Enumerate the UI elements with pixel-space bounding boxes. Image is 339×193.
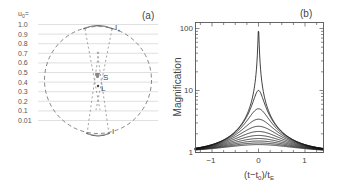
- u0-row-label: 1.0: [18, 21, 28, 28]
- figure: (a) u0= 1.00.90.80.70.60.50.40.30.20.10.…: [0, 0, 339, 193]
- source-label: S: [103, 73, 108, 82]
- image-minus-label: I: [112, 127, 114, 136]
- u0-row-label: 0.3: [18, 88, 28, 95]
- ytick-10: 10: [184, 86, 193, 95]
- panel-a: (a) u0= 1.00.90.80.70.60.50.40.30.20.10.…: [18, 10, 158, 136]
- u0-guide-lines: [38, 25, 158, 121]
- lens-label: L: [101, 84, 106, 93]
- u0-row-labels: 1.00.90.80.70.60.50.40.30.20.10.01: [18, 21, 32, 124]
- magnification-curve: [195, 31, 324, 148]
- panel-b-label: (b): [300, 8, 312, 19]
- u0-header: u0=: [18, 10, 29, 19]
- u0-row-label: 0.4: [18, 79, 28, 86]
- xtick-1: 1: [302, 156, 307, 165]
- source-star-icon: [95, 73, 100, 78]
- xtick-neg1: −1: [206, 156, 216, 165]
- lens-point-icon: [97, 85, 99, 87]
- u0-row-label: 0.1: [18, 107, 28, 114]
- u0-row-label: 0.01: [18, 117, 32, 124]
- x-axis-label: (t−t0)/tE: [244, 169, 274, 181]
- magnification-curves: [195, 31, 324, 150]
- u0-row-label: 0.7: [18, 50, 28, 57]
- ytick-100: 100: [180, 24, 194, 33]
- u0-row-label: 0.2: [18, 98, 28, 105]
- u0-row-label: 0.6: [18, 59, 28, 66]
- u0-row-label: 0.9: [18, 31, 28, 38]
- panel-b: (b) 1 10 100 −1 0 1 Magnification (t−t0)…: [172, 8, 324, 181]
- u0-row-label: 0.8: [18, 40, 28, 47]
- xtick-0: 0: [256, 156, 261, 165]
- panel-a-label: (a): [142, 10, 154, 21]
- einstein-ring: [45, 27, 152, 134]
- y-axis-label: Magnification: [172, 58, 183, 117]
- u0-row-label: 0.5: [18, 69, 28, 76]
- ytick-1: 1: [189, 148, 194, 157]
